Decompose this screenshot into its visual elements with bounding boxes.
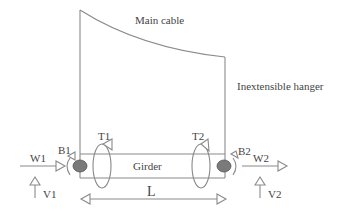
v1-arrow-icon: [30, 177, 40, 198]
w2-label: W2: [253, 152, 269, 164]
v2-arrow-icon: [255, 177, 265, 198]
t1-label: T1: [98, 130, 110, 142]
rotation-b2-icon: [231, 151, 238, 175]
w1-label: W1: [30, 152, 46, 164]
girder-diagram: Main cable Inextensible hanger Girder L …: [0, 0, 355, 217]
torsion-t2-icon: [192, 139, 210, 188]
b2-label: B2: [238, 145, 251, 157]
length-label: L: [147, 184, 156, 199]
torsion-t1-icon: [93, 139, 112, 188]
b1-label: B1: [58, 144, 71, 156]
right-support-icon: [217, 160, 231, 172]
hanger-label: Inextensible hanger: [237, 80, 324, 92]
v2-label: V2: [268, 188, 281, 200]
main-cable-label: Main cable: [135, 14, 184, 26]
girder-label: Girder: [133, 160, 162, 172]
left-support-icon: [73, 160, 87, 172]
t2-label: T2: [192, 130, 204, 142]
v1-label: V1: [43, 188, 56, 200]
